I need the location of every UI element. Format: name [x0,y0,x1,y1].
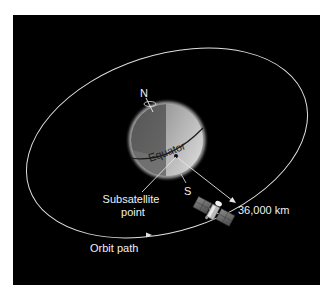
distance-label: 36,000 km [238,204,289,216]
orbit-path-label: Orbit path [90,242,138,254]
south-label: S [184,185,191,197]
subsatellite-label-line1: Subsatellite [103,193,160,205]
subsatellite-label-line2: point [121,206,145,218]
north-label: N [140,87,148,99]
earth-globe [125,98,209,182]
diagram-canvas: Equator N S Subsatellite point 36,000 km [0,0,331,296]
